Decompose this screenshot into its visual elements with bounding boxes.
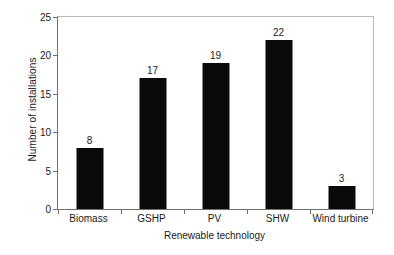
bar-value-label: 22 [273, 27, 284, 38]
y-axis-tick-label: 10 [40, 127, 51, 138]
y-axis-title: Number of installations [27, 15, 38, 205]
bar[interactable] [328, 186, 355, 209]
bar-value-label: 17 [147, 65, 158, 76]
y-axis-tick [53, 132, 58, 133]
y-axis-tick [53, 94, 58, 95]
bar-slot: 17 [121, 17, 184, 209]
y-axis-tick-label: 5 [45, 165, 51, 176]
bar-chart: Number of installations 81719223 0510152… [0, 0, 394, 255]
y-axis-tick-label: 0 [45, 204, 51, 215]
bar-slot: 3 [310, 17, 373, 209]
bar-slot: 19 [184, 17, 247, 209]
bar[interactable] [139, 78, 166, 209]
bar[interactable] [202, 63, 229, 209]
bar[interactable] [76, 148, 103, 209]
x-axis-category-labels: BiomassGSHPPVSHWWind turbine [57, 213, 372, 229]
bar[interactable] [265, 40, 292, 209]
x-axis-category-label: Wind turbine [312, 213, 368, 224]
y-axis-tick-label: 15 [40, 88, 51, 99]
y-axis-tick [53, 55, 58, 56]
y-axis-tick-label: 25 [40, 12, 51, 23]
x-axis-category-label: Biomass [69, 213, 107, 224]
x-axis-title: Renewable technology [57, 230, 372, 241]
y-axis-tick [53, 171, 58, 172]
x-axis-category-label: PV [208, 213, 221, 224]
bar-series: 81719223 [58, 17, 373, 209]
x-axis-category-label: SHW [266, 213, 289, 224]
y-axis-tick [53, 17, 58, 18]
x-axis-category-label: GSHP [137, 213, 165, 224]
bar-slot: 22 [247, 17, 310, 209]
bar-value-label: 3 [339, 173, 345, 184]
bar-value-label: 8 [87, 135, 93, 146]
y-axis-tick-label: 20 [40, 50, 51, 61]
plot-area: 81719223 0510152025 [57, 16, 374, 210]
bar-slot: 8 [58, 17, 121, 209]
bar-value-label: 19 [210, 50, 221, 61]
x-axis-tick [372, 209, 373, 214]
